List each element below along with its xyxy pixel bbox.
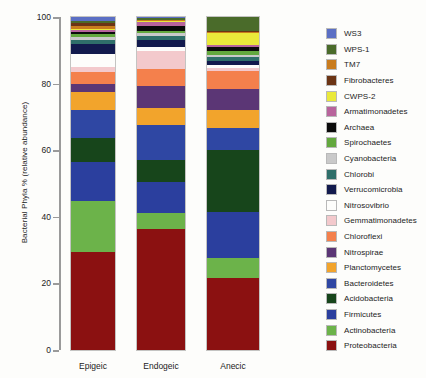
legend-item[interactable]: Acidobacteria (326, 291, 417, 307)
bar-segment[interactable] (71, 92, 115, 111)
legend-item[interactable]: Bacteroidetes (326, 276, 417, 292)
legend-color-swatch (326, 75, 337, 86)
legend-label: WPS-1 (344, 45, 370, 54)
bar-segment[interactable] (137, 213, 185, 229)
legend-item[interactable]: TM7 (326, 57, 417, 73)
bar-segment[interactable] (71, 138, 115, 161)
bar-segment[interactable] (137, 229, 185, 350)
legend-color-swatch (326, 309, 337, 320)
bar-segment[interactable] (207, 212, 259, 257)
legend-item[interactable]: Chlorobi (326, 166, 417, 182)
legend-label: Planctomycetes (344, 263, 401, 272)
legend-color-swatch (326, 278, 337, 289)
legend-color-swatch (326, 122, 337, 133)
stacked-bar-chart: Bacterial Phyla % (relative abundance) 0… (0, 0, 426, 378)
legend-label: Chlorobi (344, 170, 374, 179)
bar-segment[interactable] (207, 110, 259, 128)
legend-item[interactable]: Fibrobacteres (326, 73, 417, 89)
legend-item[interactable]: Verrucomicrobia (326, 182, 417, 198)
legend-item[interactable]: Firmicutes (326, 307, 417, 323)
legend-color-swatch (326, 184, 337, 195)
legend-item[interactable]: Archaea (326, 120, 417, 136)
legend-color-swatch (326, 91, 337, 102)
plot-area: 020406080100 EpigeicEndogeicAnecic (60, 17, 270, 350)
legend-label: Nitrosovibrio (344, 201, 389, 210)
bar-column: Epigeic (71, 17, 115, 350)
y-tick-label: 80 (42, 79, 51, 89)
bar-segment[interactable] (71, 72, 115, 84)
bar-segment[interactable] (71, 201, 115, 252)
legend-color-swatch (326, 153, 337, 164)
legend-color-swatch (326, 231, 337, 242)
legend-label: Bacteroidetes (344, 279, 394, 288)
bar-segment[interactable] (71, 252, 115, 350)
bar-segment[interactable] (137, 108, 185, 125)
legend-label: Acidobacteria (344, 294, 393, 303)
chart-legend: WS3WPS-1TM7FibrobacteresCWPS-2Armatimona… (326, 26, 417, 353)
legend-label: Verrucomicrobia (344, 185, 403, 194)
legend-color-swatch (326, 293, 337, 304)
bar-segment[interactable] (137, 69, 185, 86)
bar-segment[interactable] (137, 182, 185, 213)
legend-label: Actinobacteria (344, 326, 395, 335)
legend-item[interactable]: WS3 (326, 26, 417, 42)
legend-item[interactable]: Nitrosovibrio (326, 198, 417, 214)
legend-item[interactable]: Cyanobacteria (326, 151, 417, 167)
bar-segment[interactable] (137, 125, 185, 160)
x-axis-category-label: Anecic (220, 361, 246, 371)
legend-color-swatch (326, 169, 337, 180)
legend-color-swatch (326, 137, 337, 148)
bar-segment[interactable] (207, 150, 259, 212)
legend-item[interactable]: Chloroflexi (326, 229, 417, 245)
bar-segment[interactable] (137, 51, 185, 68)
legend-color-swatch (326, 340, 337, 351)
bar-column: Endogeic (137, 17, 185, 350)
legend-color-swatch (326, 200, 337, 211)
bar-segment[interactable] (71, 44, 115, 55)
bar-segment[interactable] (71, 84, 115, 92)
legend-item[interactable]: Actinobacteria (326, 322, 417, 338)
legend-label: Fibrobacteres (344, 76, 394, 85)
legend-color-swatch (326, 44, 337, 55)
legend-label: Nitrospirae (344, 248, 383, 257)
stacked-bar[interactable] (137, 17, 185, 350)
bar-group: EpigeicEndogeicAnecic (60, 17, 270, 350)
legend-color-swatch (326, 215, 337, 226)
bar-segment[interactable] (71, 162, 115, 201)
legend-label: Firmicutes (344, 310, 381, 319)
stacked-bar[interactable] (71, 17, 115, 350)
y-tick-label: 100 (37, 12, 51, 22)
legend-label: Chloroflexi (344, 232, 382, 241)
bar-segment[interactable] (71, 54, 115, 66)
bar-column: Anecic (207, 17, 259, 350)
legend-color-swatch (326, 247, 337, 258)
legend-label: WS3 (344, 29, 362, 38)
bar-segment[interactable] (71, 110, 115, 138)
bar-segment[interactable] (207, 89, 259, 109)
bar-segment[interactable] (137, 86, 185, 108)
y-tick (53, 84, 59, 86)
legend-color-swatch (326, 262, 337, 273)
y-tick-label: 0 (46, 345, 51, 355)
legend-item[interactable]: Proteobacteria (326, 338, 417, 354)
bar-segment[interactable] (207, 128, 259, 150)
bar-segment[interactable] (207, 71, 259, 89)
legend-item[interactable]: CWPS-2 (326, 88, 417, 104)
x-axis-category-label: Endogeic (143, 361, 178, 371)
y-tick-label: 40 (42, 212, 51, 222)
legend-item[interactable]: WPS-1 (326, 42, 417, 58)
bar-segment[interactable] (137, 160, 185, 182)
legend-item[interactable]: Nitrospirae (326, 244, 417, 260)
legend-item[interactable]: Gemmatimonadetes (326, 213, 417, 229)
y-tick (53, 350, 59, 352)
y-tick-label: 60 (42, 145, 51, 155)
bar-segment[interactable] (207, 17, 259, 30)
legend-item[interactable]: Planctomycetes (326, 260, 417, 276)
stacked-bar[interactable] (207, 17, 259, 350)
bar-segment[interactable] (207, 33, 259, 45)
bar-segment[interactable] (207, 258, 259, 278)
legend-item[interactable]: Armatimonadetes (326, 104, 417, 120)
legend-label: Proteobacteria (344, 341, 397, 350)
legend-item[interactable]: Spirochaetes (326, 135, 417, 151)
bar-segment[interactable] (207, 278, 259, 350)
